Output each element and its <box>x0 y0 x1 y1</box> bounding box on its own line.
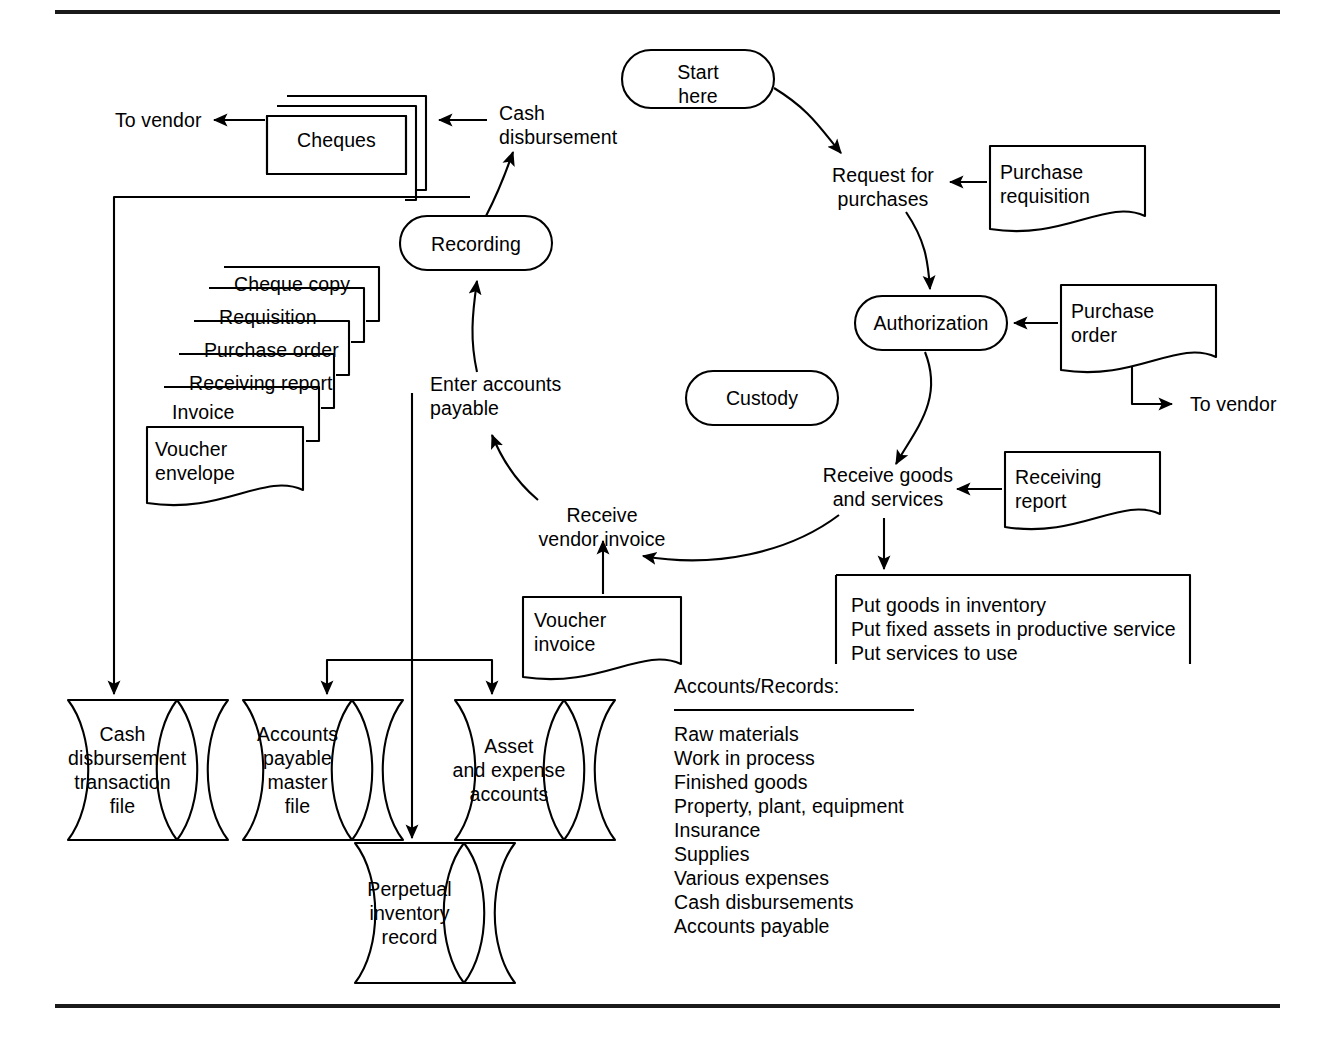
process-receive-goods-and-services-label: Receive goods and services <box>818 463 958 511</box>
document-voucher-invoice-label: Voucher invoice <box>534 608 684 656</box>
action-box-line-2: Put fixed assets in productive service <box>851 617 1191 641</box>
flowchart-page: Start here Recording Authorization Custo… <box>0 0 1328 1039</box>
process-cash-disbursement-label: Cash disbursement <box>499 101 639 149</box>
arrow-request-to-authorization <box>906 212 930 289</box>
storage-cash-disbursement-transaction-file-side <box>177 700 228 840</box>
cheques-stack-mid <box>277 106 416 200</box>
action-box-line-3: Put services to use <box>851 641 1191 665</box>
packet-label-cheque-copy: Cheque copy <box>234 272 384 296</box>
packet-label-requisition: Requisition <box>219 305 369 329</box>
arrow-enter-ap-to-recording <box>472 281 477 372</box>
process-enter-accounts-payable-label: Enter accounts payable <box>430 372 610 420</box>
process-receive-vendor-invoice-label: Receive vendor invoice <box>521 503 683 551</box>
accounts-records-heading: Accounts/Records: <box>674 674 974 698</box>
document-purchase-order-label: Purchase order <box>1071 299 1221 347</box>
accounts-records-item-2: Finished goods <box>674 770 1014 794</box>
accounts-records-item-3: Property, plant, equipment <box>674 794 1014 818</box>
accounts-records-item-1: Work in process <box>674 746 1014 770</box>
storage-perpetual-inventory-record-side <box>464 843 515 983</box>
arrow-start-to-request <box>774 88 841 153</box>
accounts-records-item-8: Accounts payable <box>674 914 1014 938</box>
document-receiving-report-label: Receiving report <box>1015 465 1165 513</box>
connector-enter-ap-fan-right <box>412 660 492 694</box>
accounts-records-item-6: Various expenses <box>674 866 1014 890</box>
accounts-records-item-5: Supplies <box>674 842 1014 866</box>
storage-accounts-payable-master-file-side <box>352 700 403 840</box>
packet-label-invoice: Invoice <box>172 400 322 424</box>
storage-perpetual-inventory-record-label: Perpetual inventory record <box>355 877 464 949</box>
arrow-receive-vendor-invoice-to-enter-ap <box>492 435 538 500</box>
accounts-records-item-7: Cash disbursements <box>674 890 1014 914</box>
connector-to-vendor-left-label: To vendor <box>115 108 225 132</box>
storage-asset-and-expense-accounts-label: Asset and expense accounts <box>447 734 571 806</box>
terminator-authorization-label: Authorization <box>855 311 1007 335</box>
terminator-recording-label: Recording <box>400 232 552 256</box>
connector-to-vendor-right-label: To vendor <box>1190 392 1300 416</box>
process-request-for-purchases-label: Request for purchases <box>818 163 948 211</box>
accounts-records-item-4: Insurance <box>674 818 1014 842</box>
packet-label-purchase-order: Purchase order <box>204 338 364 362</box>
arrow-authorization-to-receive-goods <box>896 352 931 464</box>
action-box-line-1: Put goods in inventory <box>851 593 1191 617</box>
document-purchase-requisition-label: Purchase requisition <box>1000 160 1150 208</box>
storage-accounts-payable-master-file-label: Accounts payable master file <box>243 722 352 818</box>
connector-enter-ap-fan-left <box>327 660 412 694</box>
arrow-recording-to-cash-disbursement <box>486 152 513 216</box>
accounts-records-item-0: Raw materials <box>674 722 1014 746</box>
arrow-purchase-order-to-vendor <box>1132 366 1172 404</box>
multidoc-cheques-label: Cheques <box>267 128 406 152</box>
terminator-start-here-label: Start here <box>622 60 774 108</box>
terminator-custody-label: Custody <box>686 386 838 410</box>
storage-asset-and-expense-accounts-side <box>564 700 615 840</box>
storage-cash-disbursement-transaction-file-label: Cash disbursement transaction file <box>68 722 177 818</box>
packet-label-voucher-envelope: Voucher envelope <box>155 437 305 485</box>
packet-label-receiving-report: Receiving report <box>189 371 359 395</box>
